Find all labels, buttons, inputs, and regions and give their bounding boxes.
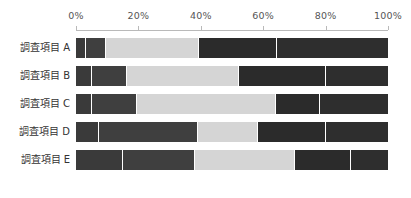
bar-row-label: 調査項目 D (0, 122, 70, 142)
bar-segment[interactable] (320, 94, 388, 114)
bar-segment[interactable] (92, 66, 127, 86)
bar-segment[interactable] (123, 150, 195, 170)
bar-row-label: 調査項目 A (0, 38, 70, 58)
bar-rows-container: 調査項目 A調査項目 B調査項目 C調査項目 D調査項目 E (0, 34, 411, 198)
x-axis-tick-label: 20% (128, 10, 150, 21)
x-axis-tick-label: 0% (68, 10, 83, 21)
bar-segment[interactable] (76, 38, 86, 58)
bar-row: 調査項目 A (0, 38, 411, 58)
bar-row: 調査項目 E (0, 150, 411, 170)
x-axis-tick-label: 40% (190, 10, 212, 21)
bar-row: 調査項目 C (0, 94, 411, 114)
bar-segment[interactable] (92, 94, 136, 114)
x-axis-tick-mark (263, 26, 264, 30)
bar-segment[interactable] (137, 94, 277, 114)
bar-track (76, 122, 388, 142)
bar-row: 調査項目 D (0, 122, 411, 142)
stacked-bar-chart: 0%20%40%60%80%100% 調査項目 A調査項目 B調査項目 C調査項… (0, 0, 411, 198)
bar-row-label: 調査項目 E (0, 150, 70, 170)
bar-segment[interactable] (351, 150, 388, 170)
bar-track (76, 38, 388, 58)
bar-segment[interactable] (76, 122, 99, 142)
bar-segment[interactable] (86, 38, 105, 58)
x-axis: 0%20%40%60%80%100% (0, 0, 411, 34)
x-axis-tick-mark (76, 26, 77, 30)
bar-segment[interactable] (295, 150, 351, 170)
bar-segment[interactable] (76, 150, 123, 170)
x-axis-tick-label: 100% (374, 10, 402, 21)
bar-segment[interactable] (195, 150, 295, 170)
x-axis-tick-label: 80% (315, 10, 337, 21)
bar-segment[interactable] (277, 38, 388, 58)
bar-track (76, 66, 388, 86)
bar-segment[interactable] (258, 122, 327, 142)
bar-segment[interactable] (106, 38, 199, 58)
bar-row: 調査項目 B (0, 66, 411, 86)
x-axis-tick-mark (326, 26, 327, 30)
bar-segment[interactable] (199, 38, 277, 58)
bar-row-label: 調査項目 C (0, 94, 70, 114)
bar-segment[interactable] (326, 66, 388, 86)
bar-row-label: 調査項目 B (0, 66, 70, 86)
x-axis-tick-mark (138, 26, 139, 30)
bar-segment[interactable] (276, 94, 320, 114)
x-axis-tick-mark (388, 26, 389, 30)
x-axis-tick-label: 60% (252, 10, 274, 21)
bar-segment[interactable] (76, 66, 92, 86)
x-axis-line (76, 30, 388, 31)
bar-segment[interactable] (76, 94, 92, 114)
bar-track (76, 94, 388, 114)
bar-segment[interactable] (99, 122, 199, 142)
x-axis-tick-mark (201, 26, 202, 30)
bar-segment[interactable] (326, 122, 388, 142)
bar-segment[interactable] (239, 66, 326, 86)
bar-segment[interactable] (127, 66, 239, 86)
bar-track (76, 150, 388, 170)
bar-segment[interactable] (198, 122, 258, 142)
